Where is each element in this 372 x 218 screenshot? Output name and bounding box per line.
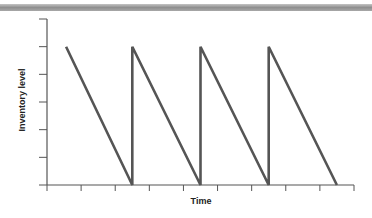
sawtooth-chart <box>0 0 372 218</box>
x-axis <box>47 185 354 191</box>
y-axis <box>39 19 47 185</box>
x-axis-label: Time <box>191 196 212 206</box>
inventory-line <box>66 47 337 185</box>
y-axis-label: Inventory level <box>17 68 27 131</box>
